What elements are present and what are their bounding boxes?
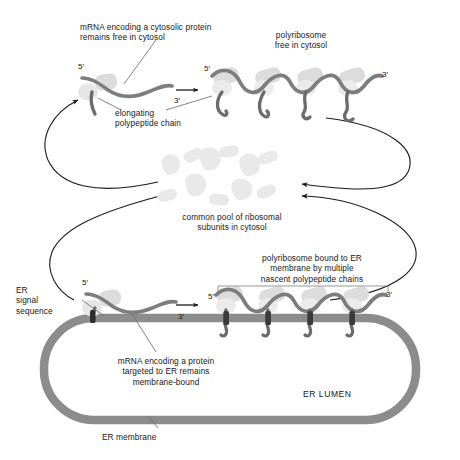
prime-bound-single-5: 5′ bbox=[82, 278, 88, 287]
prime-free-poly-5: 5′ bbox=[204, 64, 210, 73]
er-signal-sequence-marker bbox=[90, 310, 96, 323]
label-er-lumen: ER LUMEN bbox=[303, 389, 352, 399]
label-er-bound-polyribosome: polyribosome bound to ER membrane by mul… bbox=[232, 253, 392, 284]
prime-free-poly-3: 3′ bbox=[382, 70, 388, 79]
prime-bound-single-3: 3′ bbox=[178, 312, 184, 321]
label-free-mrna: mRNA encoding a cytosolic protein remain… bbox=[80, 22, 270, 43]
prime-bound-poly-5: 5′ bbox=[208, 292, 214, 301]
ribosome-small-subunit bbox=[78, 84, 98, 101]
prime-bound-poly-3: 3′ bbox=[386, 290, 392, 299]
prime-free-single-3: 3′ bbox=[174, 96, 180, 105]
label-elongating-chain: elongating polypeptide chain bbox=[115, 108, 245, 129]
er-bound-polyribosome-complex bbox=[216, 285, 386, 336]
ribosomal-subunit-pool bbox=[156, 145, 279, 206]
label-bound-mrna: mRNA encoding a protein targeted to ER r… bbox=[86, 356, 246, 387]
label-er-signal-sequence: ER signal sequence bbox=[16, 285, 76, 316]
recycling-arrow-lower-right bbox=[302, 196, 416, 300]
diagram-canvas: mRNA encoding a cytosolic protein remain… bbox=[0, 0, 460, 460]
label-free-polyribosome: polyribosome free in cytosol bbox=[246, 30, 356, 51]
recycling-arrow-upper-right bbox=[302, 118, 410, 189]
prime-free-single-5: 5′ bbox=[78, 62, 84, 71]
label-subunit-pool: common pool of ribosomal subunits in cyt… bbox=[148, 212, 316, 233]
label-er-membrane: ER membrane bbox=[102, 432, 156, 442]
